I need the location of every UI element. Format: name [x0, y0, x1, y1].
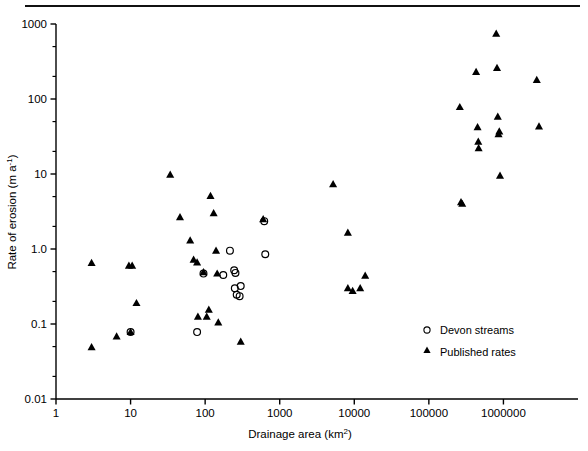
data-point-devon-stream — [194, 329, 201, 336]
data-point-published-rate — [356, 284, 364, 291]
data-point-published-rate — [132, 299, 140, 306]
scatter-plot-canvas: 1000100101.00.10.01 11010010001000010000… — [0, 0, 588, 451]
data-point-published-rate — [88, 343, 96, 350]
erosion-rate-scatter-figure: 1000100101.00.10.01 11010010001000010000… — [0, 0, 588, 451]
data-point-published-rate — [194, 313, 202, 320]
data-point-published-rate — [214, 318, 222, 325]
svg-text:Drainage area (km2): Drainage area (km2) — [248, 427, 352, 440]
x-axis-title-main: Drainage area (km — [248, 428, 343, 440]
y-axis-tick-label: 0.1 — [31, 318, 47, 330]
series-published-rates — [88, 30, 543, 351]
data-point-devon-stream — [262, 251, 269, 258]
data-point-published-rate — [203, 313, 211, 320]
data-point-published-rate — [176, 213, 184, 220]
x-axis-tick-label: 100 — [196, 407, 215, 419]
data-point-published-rate — [495, 127, 503, 134]
y-axis-tick-label: 0.01 — [25, 393, 47, 405]
x-axis-tick-label: 10 — [124, 407, 137, 419]
data-point-published-rate — [474, 137, 482, 144]
data-point-published-rate — [535, 122, 543, 129]
data-point-published-rate — [329, 180, 337, 187]
data-point-published-rate — [206, 192, 214, 199]
legend: Devon streams Published rates — [423, 324, 516, 358]
y-axis-tick-label: 100 — [28, 93, 47, 105]
data-point-devon-stream — [237, 283, 244, 290]
legend-entry-devon-streams[interactable]: Devon streams — [424, 324, 515, 336]
y-axis-ticks — [51, 24, 57, 399]
y-axis-title-close-paren: ) — [6, 154, 18, 158]
data-point-published-rate — [533, 76, 541, 83]
x-axis-title: Drainage area (km2) — [248, 427, 352, 440]
data-point-published-rate — [212, 246, 220, 253]
data-point-published-rate — [237, 338, 245, 345]
data-point-published-rate — [456, 103, 464, 110]
data-point-devon-stream — [220, 272, 227, 279]
x-axis-tick-label: 1000 — [267, 407, 293, 419]
data-point-published-rate — [344, 228, 352, 235]
legend-entry-published-rates[interactable]: Published rates — [423, 346, 516, 358]
data-point-published-rate — [210, 209, 218, 216]
x-axis-tick-labels: 1101001000100001000001000000 — [53, 407, 526, 419]
data-point-published-rate — [344, 284, 352, 291]
data-point-published-rate — [494, 113, 502, 120]
data-point-published-rate — [205, 306, 213, 313]
data-point-published-rate — [472, 68, 480, 75]
x-axis-tick-label: 1000000 — [481, 407, 526, 419]
data-point-devon-stream — [227, 247, 234, 254]
data-point-published-rate — [88, 259, 96, 266]
data-point-published-rate — [166, 170, 174, 177]
data-point-published-rate — [474, 123, 482, 130]
y-axis-tick-label: 1000 — [21, 18, 47, 30]
x-axis-ticks — [56, 399, 503, 405]
data-point-published-rate — [361, 272, 369, 279]
x-axis-tick-label: 1 — [53, 407, 59, 419]
y-axis-title-main: Rate of erosion (m a — [6, 165, 18, 270]
x-axis-tick-label: 100000 — [410, 407, 448, 419]
y-axis-tick-label: 10 — [34, 168, 47, 180]
data-point-published-rate — [186, 236, 194, 243]
legend-label-published-rates: Published rates — [440, 346, 516, 358]
data-point-published-rate — [496, 171, 504, 178]
data-point-published-rate — [475, 144, 483, 151]
filled-triangle-marker-icon — [423, 347, 430, 353]
legend-label-devon-streams: Devon streams — [440, 324, 514, 336]
y-axis-tick-labels: 1000100101.00.10.01 — [21, 18, 47, 405]
x-axis-tick-label: 10000 — [338, 407, 370, 419]
y-axis-tick-label: 1.0 — [31, 243, 47, 255]
open-circle-marker-icon — [424, 327, 430, 333]
svg-text:Rate of erosion (m a-1): Rate of erosion (m a-1) — [5, 154, 18, 269]
y-axis-title: Rate of erosion (m a-1) — [5, 154, 18, 269]
x-axis-title-close-paren: ) — [348, 428, 352, 440]
data-point-published-rate — [113, 332, 121, 339]
data-point-published-rate — [493, 64, 501, 71]
data-point-published-rate — [492, 30, 500, 37]
